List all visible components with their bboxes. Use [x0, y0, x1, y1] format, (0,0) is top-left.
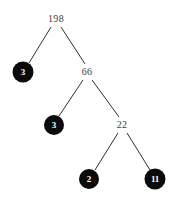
tree-node-2: 2	[79, 169, 99, 189]
tree-edge	[92, 80, 119, 117]
tree-edge	[59, 80, 83, 116]
tree-node-label: 2	[87, 175, 91, 184]
tree-node-22: 22	[117, 120, 128, 130]
tree-node-3: 3	[13, 62, 34, 83]
tree-edge	[29, 27, 51, 63]
tree-node-label: 3	[21, 68, 25, 77]
tree-edge	[95, 133, 118, 170]
tree-node-label: 198	[48, 14, 64, 24]
tree-node-label: 11	[151, 175, 159, 184]
tree-edge	[127, 133, 150, 170]
tree-node-label: 22	[117, 120, 128, 130]
tree-node-3: 3	[44, 115, 64, 135]
tree-node-label: 66	[82, 67, 93, 77]
tree-edge	[61, 27, 85, 64]
tree-node-66: 66	[82, 67, 93, 77]
tree-node-11: 11	[145, 169, 166, 190]
binary-tree-diagram: 198366322211	[0, 0, 170, 199]
tree-node-label: 3	[52, 121, 56, 130]
tree-node-198: 198	[48, 14, 64, 24]
